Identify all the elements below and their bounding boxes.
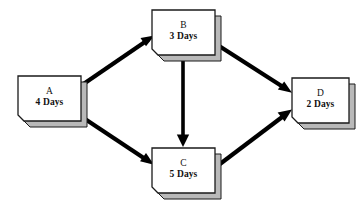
node-b-card [152, 10, 215, 55]
edge-b-to-d[interactable] [216, 44, 292, 93]
activity-network-diagram: A 4 Days B 3 Days C 5 Days D 2 Days [0, 0, 362, 209]
edge-a-to-c[interactable] [82, 117, 154, 165]
node-a[interactable] [18, 76, 87, 127]
edge-c-to-d[interactable] [216, 110, 292, 167]
node-c[interactable] [152, 148, 221, 199]
node-a-card [18, 76, 81, 121]
node-b[interactable] [152, 10, 221, 61]
edge-b-to-c[interactable] [177, 56, 189, 147]
node-d-card [292, 78, 349, 123]
edge-b-to-d-line [216, 44, 286, 89]
edge-a-to-b-line [82, 40, 149, 86]
node-layer [18, 10, 355, 199]
edge-a-to-c-line [82, 117, 148, 161]
node-c-card [152, 148, 215, 193]
node-d[interactable] [292, 78, 355, 129]
edge-c-to-d-line [216, 115, 286, 168]
edge-a-to-b[interactable] [82, 36, 155, 86]
diagram-canvas [0, 0, 362, 209]
edge-b-to-c-arrowhead [177, 135, 189, 148]
